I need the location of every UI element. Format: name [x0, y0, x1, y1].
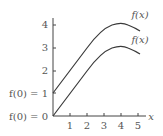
ytick-label: 4 — [42, 19, 48, 30]
xtick-label: 3 — [101, 120, 107, 131]
ytick-label: 3 — [42, 42, 48, 53]
lower-curve — [53, 47, 140, 117]
f0-zero-label: f(0) = 0 — [9, 111, 48, 122]
upper-curve — [53, 24, 140, 94]
ytick-label: 2 — [42, 65, 48, 76]
xtick-label: 4 — [118, 120, 124, 131]
xtick-label: 2 — [84, 120, 90, 131]
xtick-label: 1 — [67, 120, 73, 131]
upper-curve-label: f(x) — [130, 9, 148, 20]
x-axis-label: x — [148, 111, 154, 122]
lower-curve-label: f(x) — [130, 34, 148, 45]
chart: 1 2 3 4 5 4 3 2 f(0) = 1 f(0) = 0 x f(x)… — [0, 0, 163, 136]
f0-one-label: f(0) = 1 — [9, 88, 48, 99]
xtick-label: 5 — [135, 120, 141, 131]
